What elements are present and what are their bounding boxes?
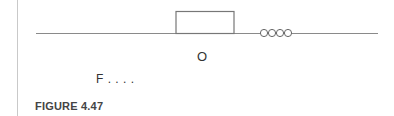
force-label: F . . . . bbox=[96, 72, 135, 86]
spring-coils bbox=[260, 29, 291, 36]
origin-label: O bbox=[197, 49, 207, 64]
figure-caption: FIGURE 4.47 bbox=[35, 100, 103, 112]
block bbox=[176, 12, 234, 34]
